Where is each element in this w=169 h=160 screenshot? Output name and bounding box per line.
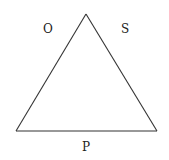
label-left-side-o: O <box>43 22 53 36</box>
label-base-p: P <box>82 140 90 154</box>
triangle-diagram: O S P <box>0 0 169 160</box>
label-right-side-s: S <box>121 22 129 36</box>
